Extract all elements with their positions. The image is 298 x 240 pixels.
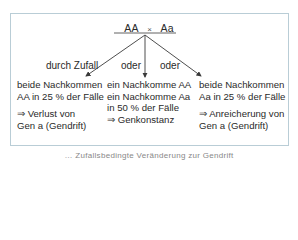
outcome-result: ⇒ Genkonstanz: [107, 114, 191, 126]
branch-label-chance: durch Zufall: [46, 60, 98, 71]
outcome-result: ⇒ Verlust von: [17, 108, 104, 120]
outcome-text: beide Nachkommen: [199, 79, 285, 91]
outcome-text: AA in 25 % der Fälle: [17, 91, 104, 103]
outcome-text: beide Nachkommen: [17, 79, 104, 91]
branch-label-or-2: oder: [160, 60, 180, 71]
outcome-result: Gen a (Gendrift): [17, 120, 104, 132]
outcome-text: Aa in 25 % der Fälle: [199, 91, 285, 103]
branch-label-or-1: oder: [121, 60, 141, 71]
outcome-middle: ein Nachkomme AA ein Nachkomme Aa in 50 …: [107, 79, 191, 125]
outcome-result: ⇒ Anreicherung von: [199, 108, 285, 120]
outcome-left: beide Nachkommen AA in 25 % der Fälle ⇒ …: [17, 79, 104, 131]
outcome-right: beide Nachkommen Aa in 25 % der Fälle ⇒ …: [199, 79, 285, 131]
outcome-text: in 50 % der Fälle: [107, 102, 191, 114]
outcome-text: ein Nachkomme Aa: [107, 91, 191, 103]
outcome-text: ein Nachkomme AA: [107, 79, 191, 91]
outcome-result: Gen a (Gendrift): [199, 120, 285, 132]
figure-caption: … Zufallsbedingte Veränderung zur Gendri…: [0, 151, 298, 160]
